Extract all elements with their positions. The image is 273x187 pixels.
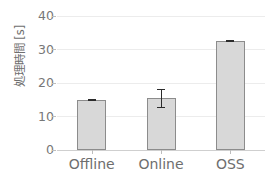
x-tick-mark bbox=[230, 150, 231, 154]
bar-chart: 処理時間 [s] 010203040 OfflineOnlineOSS bbox=[0, 0, 273, 187]
x-axis-tick-labels: OfflineOnlineOSS bbox=[0, 0, 273, 187]
x-tick-mark bbox=[161, 150, 162, 154]
x-tick-label: OSS bbox=[180, 157, 273, 171]
x-tick-mark bbox=[92, 150, 93, 154]
